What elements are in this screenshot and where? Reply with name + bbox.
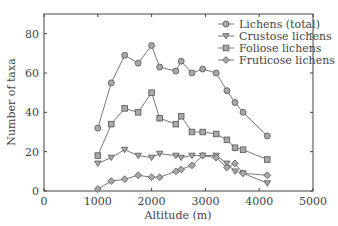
circle-marker — [264, 133, 270, 139]
triangle-down-marker — [108, 155, 114, 160]
square-marker — [149, 90, 155, 96]
circle-marker — [224, 88, 230, 94]
diamond-marker — [264, 172, 271, 179]
y-tick-label: 0 — [32, 185, 39, 198]
triangle-down-marker — [178, 155, 184, 160]
diamond-marker — [121, 176, 128, 183]
line-chart: 010002000300040005000020406080 Lichens (… — [0, 0, 338, 226]
circle-marker — [232, 100, 238, 106]
diamond-marker — [148, 174, 155, 181]
triangle-down-marker — [95, 161, 101, 166]
legend-label: Fruticose lichens — [239, 54, 335, 67]
circle-marker — [149, 42, 155, 48]
circle-marker — [178, 58, 184, 64]
circle-marker — [157, 64, 163, 70]
square-marker — [213, 131, 219, 137]
series-crustose-lichens — [95, 147, 271, 186]
square-marker — [224, 137, 230, 143]
square-marker — [135, 110, 141, 116]
square-marker — [178, 113, 184, 119]
triangle-down-marker — [148, 155, 154, 160]
triangle-down-marker — [122, 147, 128, 152]
diamond-marker — [223, 57, 230, 64]
x-axis-label: Altitude (m) — [144, 209, 212, 222]
circle-marker — [108, 80, 114, 86]
diamond-marker — [108, 178, 115, 185]
circle-marker — [135, 60, 141, 66]
x-tick-label: 2000 — [138, 195, 166, 208]
circle-marker — [240, 109, 246, 115]
square-marker — [173, 121, 179, 127]
x-tick-label: 1000 — [84, 195, 112, 208]
x-tick-label: 5000 — [299, 195, 327, 208]
square-marker — [108, 121, 114, 127]
y-tick-label: 40 — [25, 106, 39, 119]
x-tick-label: 3000 — [191, 195, 219, 208]
x-tick-label: 4000 — [245, 195, 273, 208]
circle-marker — [200, 66, 206, 72]
circle-marker — [223, 21, 229, 27]
circle-marker — [189, 70, 195, 76]
square-marker — [122, 106, 128, 112]
y-tick-label: 60 — [25, 67, 39, 80]
square-marker — [189, 129, 195, 135]
square-marker — [240, 147, 246, 153]
legend: Lichens (total)Crustose lichensFoliose l… — [218, 18, 335, 67]
square-marker — [95, 153, 101, 159]
y-tick-label: 20 — [25, 146, 39, 159]
square-marker — [232, 145, 238, 151]
circle-marker — [213, 70, 219, 76]
square-marker — [157, 115, 163, 121]
legend-item: Fruticose lichens — [218, 54, 335, 67]
circle-marker — [173, 68, 179, 74]
square-marker — [223, 45, 229, 51]
diamond-marker — [135, 172, 142, 179]
x-tick-label: 0 — [41, 195, 48, 208]
triangle-down-marker — [264, 181, 270, 186]
square-marker — [264, 157, 270, 163]
circle-marker — [95, 125, 101, 131]
y-tick-label: 80 — [25, 28, 39, 41]
y-axis-label: Number of taxa — [5, 58, 18, 146]
square-marker — [200, 129, 206, 135]
circle-marker — [122, 52, 128, 58]
diamond-marker — [156, 174, 163, 181]
